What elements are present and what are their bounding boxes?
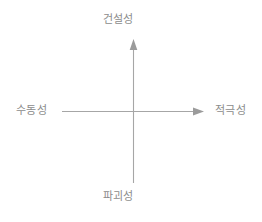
horizontal-axis-arrowhead-icon	[193, 108, 204, 116]
axis-label-right: 적극성	[215, 104, 246, 117]
axis-label-top: 건설성	[0, 13, 249, 26]
vertical-axis-arrowhead-icon	[130, 39, 138, 50]
axis-label-left: 수동성	[16, 104, 47, 117]
axis-diagram: 건설성 파괴성 수동성 적극성	[0, 0, 262, 222]
axis-label-bottom: 파괴성	[0, 190, 249, 203]
